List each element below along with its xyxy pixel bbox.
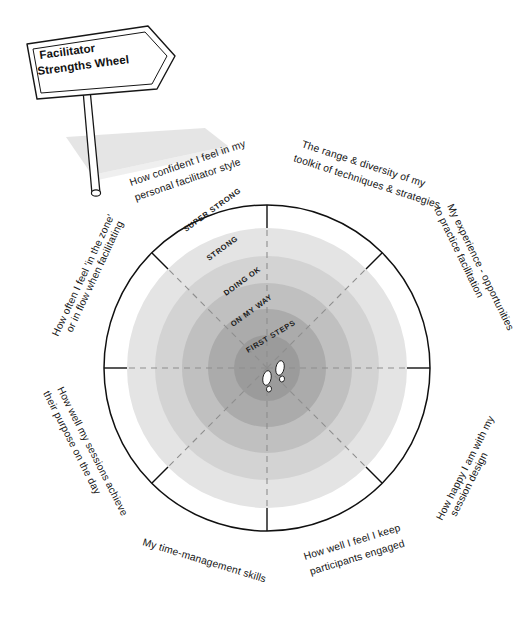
- segment-label-participants-engaged[interactable]: How well I feel I keep participants enga…: [302, 522, 406, 577]
- signpost-pole-base: [91, 190, 100, 196]
- segment-label-experience-line-1: My experience - opportunities: [445, 202, 516, 332]
- segment-label-in-the-zone-line-1: How often I feel 'in the zone': [50, 212, 116, 337]
- segment-label-session-design[interactable]: How happy I am with my session design: [434, 413, 497, 521]
- segment-label-time-management-line-1: My time-management skills: [141, 536, 267, 584]
- wheel-group: SUPER STRONG STRONG DOING OK ON MY WAY F…: [41, 138, 516, 585]
- facilitator-strengths-wheel-poster: Facilitator Strengths Wheel: [0, 0, 528, 621]
- segment-label-session-design-line-1: How happy I am with my: [434, 413, 497, 521]
- footprint-right-heel: [279, 376, 285, 383]
- segment-label-time-management[interactable]: My time-management skills: [141, 536, 267, 584]
- segment-label-experience[interactable]: My experience - opportunities to practic…: [432, 202, 516, 332]
- poster-canvas: Facilitator Strengths Wheel: [0, 0, 528, 621]
- segment-label-toolkit[interactable]: The range & diversity of my toolkit of t…: [292, 138, 441, 210]
- footprint-left-heel: [266, 386, 272, 393]
